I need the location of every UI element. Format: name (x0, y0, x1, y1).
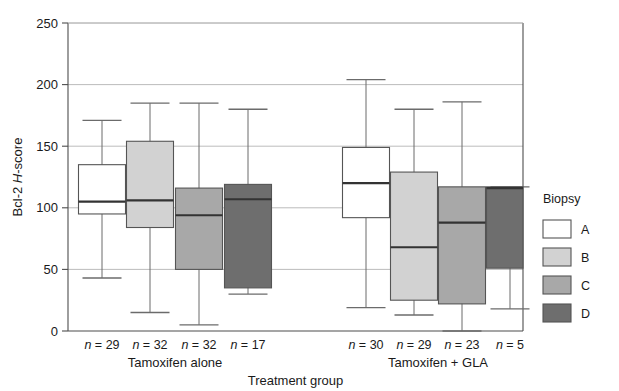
legend-label-D: D (581, 307, 590, 321)
legend-label-C: C (581, 279, 590, 293)
legend-swatch-B[interactable] (543, 248, 571, 266)
n-label: n = 32 (132, 338, 167, 352)
legend-swatch-A[interactable] (543, 220, 571, 238)
box-rect[interactable] (439, 187, 486, 304)
n-label: n = 29 (396, 338, 431, 352)
boxplot-Tamoxifen-alone-A[interactable] (79, 120, 126, 278)
y-tick-label: 100 (36, 200, 58, 215)
box-group-2 (343, 80, 530, 331)
n-label: n = 32 (181, 338, 216, 352)
y-axis-title: Bcl-2 H-score (10, 138, 25, 217)
legend-swatch-C[interactable] (543, 276, 571, 294)
n-label: n = 23 (444, 338, 479, 352)
legend-label-B: B (581, 251, 589, 265)
n-label: n = 5 (496, 338, 524, 352)
y-tick-label: 200 (36, 77, 58, 92)
legend-label-A: A (581, 223, 590, 237)
legend-title: Biopsy (543, 192, 581, 206)
x-axis-title: Treatment group (248, 373, 344, 388)
box-rect[interactable] (127, 141, 174, 227)
legend-item-C[interactable]: C (543, 276, 590, 294)
legend-swatch-D[interactable] (543, 304, 571, 322)
legend-item-D[interactable]: D (543, 304, 590, 322)
boxplot-svg: 050100150200250Bcl-2 H-scoren = 29n = 32… (0, 0, 619, 391)
y-axis-title-text: Bcl-2 H-score (10, 138, 25, 217)
box-rect[interactable] (176, 188, 223, 269)
box-rect[interactable] (487, 187, 524, 268)
box-rect[interactable] (391, 172, 438, 300)
box-group-1 (79, 103, 272, 325)
n-label: n = 17 (230, 338, 265, 352)
y-tick-label: 150 (36, 139, 58, 154)
n-label: n = 29 (84, 338, 119, 352)
boxplot-Tamoxifen-+-GLA-C[interactable] (439, 102, 486, 331)
y-tick-label: 50 (44, 262, 58, 277)
group-label: Tamoxifen alone (128, 355, 223, 370)
legend-item-B[interactable]: B (543, 248, 589, 266)
boxplot-Tamoxifen-+-GLA-B[interactable] (391, 109, 438, 315)
y-tick-label: 250 (36, 16, 58, 31)
legend-item-A[interactable]: A (543, 220, 590, 238)
boxplot-Tamoxifen-alone-D[interactable] (225, 109, 272, 294)
boxplot-Tamoxifen-alone-B[interactable] (127, 103, 174, 312)
boxplot-figure: 050100150200250Bcl-2 H-scoren = 29n = 32… (0, 0, 619, 391)
group-label: Tamoxifen + GLA (388, 355, 488, 370)
n-label: n = 30 (348, 338, 383, 352)
box-rect[interactable] (79, 165, 126, 214)
boxplot-Tamoxifen-alone-C[interactable] (176, 103, 223, 325)
boxplot-Tamoxifen-+-GLA-A[interactable] (343, 80, 390, 308)
y-tick-label: 0 (51, 324, 58, 339)
